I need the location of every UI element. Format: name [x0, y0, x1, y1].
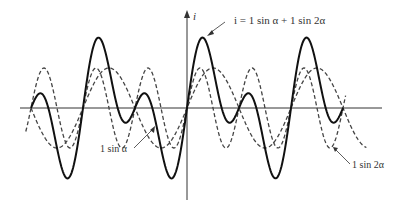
- leader-sin-alpha: [134, 129, 153, 148]
- waveform-diagram: i i = 1 sin α + 1 sin 2α 1 sin α 1 sin 2…: [0, 0, 397, 209]
- leader-sin-alpha-arrow-icon: [150, 126, 155, 133]
- sin-alpha-label: 1 sin α: [100, 143, 128, 154]
- y-axis-label: i: [193, 10, 196, 22]
- y-axis-arrow-icon: [184, 10, 190, 18]
- sin-2alpha-label: 1 sin 2α: [352, 159, 385, 170]
- equation-label: i = 1 sin α + 1 sin 2α: [234, 14, 325, 26]
- leader-sin-2alpha: [336, 150, 350, 164]
